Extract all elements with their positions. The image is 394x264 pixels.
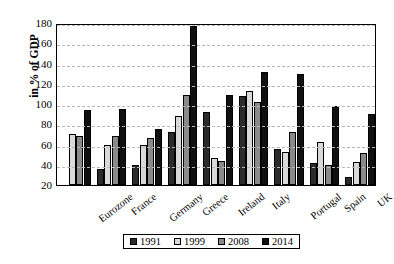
y-axis-title: in % of GDP <box>28 6 40 126</box>
x-tick-label: Greece <box>201 191 231 218</box>
bar-france-1999 <box>104 145 111 186</box>
gridline <box>57 86 375 87</box>
bar-germany-2014 <box>155 129 162 185</box>
chart-legend: 1991199920082014 <box>123 234 300 249</box>
bar-group <box>128 25 164 185</box>
bars-layer <box>57 25 375 185</box>
legend-item-2014[interactable]: 2014 <box>262 237 293 247</box>
legend-item-1991[interactable]: 1991 <box>130 237 161 247</box>
x-tick-label: Spain <box>342 191 368 214</box>
bar-ireland-1999 <box>211 158 218 185</box>
legend-swatch-icon <box>218 238 225 245</box>
y-tick-label: 20 <box>20 180 52 191</box>
bar-ireland-2008 <box>218 161 225 185</box>
bar-greece-2008 <box>183 95 190 185</box>
bar-group <box>57 25 93 185</box>
x-axis-labels: EurozoneFranceGermanyGreeceIrelandItalyP… <box>56 188 376 240</box>
gridline <box>57 66 375 67</box>
bar-portugal-2008 <box>289 132 296 185</box>
bar-group <box>235 25 271 185</box>
legend-label: 1999 <box>184 237 205 247</box>
bar-group <box>270 25 306 185</box>
legend-item-2008[interactable]: 2008 <box>218 237 249 247</box>
bar-germany-1991 <box>132 165 139 185</box>
x-tick-label: UK <box>375 191 394 209</box>
bar-uk-1999 <box>353 162 360 185</box>
legend-swatch-icon <box>130 238 137 245</box>
bar-france-1991 <box>97 169 104 185</box>
bar-uk-1991 <box>345 177 352 185</box>
legend-label: 2008 <box>228 237 249 247</box>
legend-label: 2014 <box>272 237 293 247</box>
bar-ireland-2014 <box>226 95 233 185</box>
bar-italy-2008 <box>254 102 261 185</box>
bar-group <box>341 25 377 185</box>
legend-swatch-icon <box>174 238 181 245</box>
y-tick-label: 60 <box>20 140 52 151</box>
bar-eurozone-1999 <box>69 134 76 185</box>
bar-greece-1991 <box>168 132 175 185</box>
bar-italy-2014 <box>261 72 268 185</box>
x-tick-label: France <box>129 191 158 217</box>
bar-eurozone-2008 <box>76 136 83 185</box>
bar-france-2008 <box>112 136 119 185</box>
gridline <box>57 147 375 148</box>
bar-spain-1999 <box>317 142 324 185</box>
x-tick-label: Italy <box>270 191 292 212</box>
bar-italy-1999 <box>246 91 253 185</box>
legend-label: 1991 <box>140 237 161 247</box>
bar-italy-1991 <box>239 96 246 185</box>
bar-uk-2008 <box>360 153 367 185</box>
bar-spain-2008 <box>325 165 332 185</box>
gridline <box>57 106 375 107</box>
x-tick-label: Ireland <box>236 191 266 218</box>
gridline <box>57 45 375 46</box>
legend-swatch-icon <box>262 238 269 245</box>
bar-eurozone-2014 <box>84 110 91 185</box>
x-tick-label: Portugal <box>309 191 344 222</box>
y-tick-label: 40 <box>20 160 52 171</box>
plot-area <box>56 24 376 186</box>
bar-uk-2014 <box>368 114 375 185</box>
gridline <box>57 126 375 127</box>
bar-group <box>164 25 200 185</box>
x-tick-label: Germany <box>167 191 205 224</box>
bar-ireland-1991 <box>203 112 210 185</box>
gridline <box>57 167 375 168</box>
bar-portugal-1999 <box>282 152 289 185</box>
bar-germany-1999 <box>140 145 147 186</box>
gridline <box>57 25 375 26</box>
bar-group <box>306 25 342 185</box>
bar-group <box>93 25 129 185</box>
bar-portugal-2014 <box>297 74 304 185</box>
legend-item-1999[interactable]: 1999 <box>174 237 205 247</box>
bar-germany-2008 <box>147 138 154 185</box>
bar-group <box>199 25 235 185</box>
